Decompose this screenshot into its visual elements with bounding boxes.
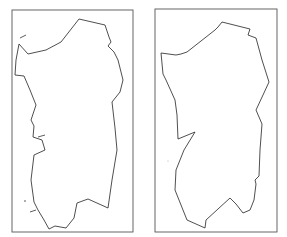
islet-mark [30, 210, 36, 212]
map-canvas [0, 0, 287, 237]
right-map-panel [155, 9, 277, 232]
islet-mark [20, 35, 26, 38]
left-map-panel [12, 10, 133, 232]
right-islets [167, 160, 168, 161]
right-island-outline [161, 22, 269, 228]
left-island-outline [15, 19, 123, 229]
speck-mark [167, 160, 168, 161]
